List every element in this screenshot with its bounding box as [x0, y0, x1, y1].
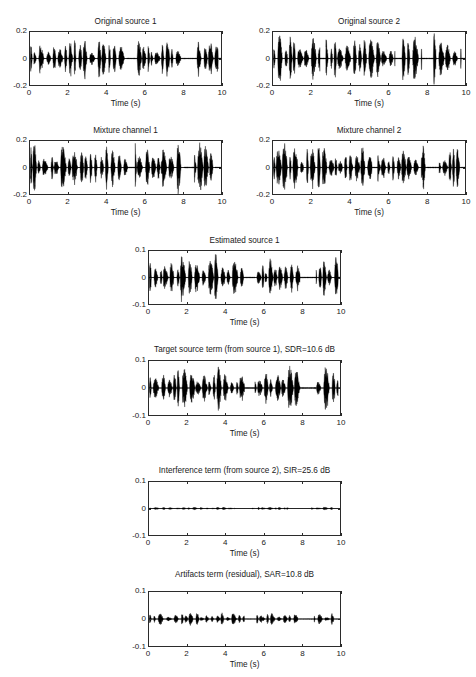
- source-separation-figure: Original source 10.20-0.20246810Time (s)…: [0, 0, 476, 677]
- x-axis-label-artifacts-term: Time (s): [148, 660, 341, 669]
- plot-area-artifacts-term: [148, 591, 341, 647]
- x-tick-label: 6: [252, 650, 276, 658]
- y-tick-mark: [148, 646, 151, 647]
- waveform-artifacts-term: [149, 592, 340, 646]
- x-tick-mark: [225, 644, 226, 647]
- x-tick-mark: [264, 644, 265, 647]
- x-tick-label: 8: [290, 650, 314, 658]
- x-tick-mark-top: [341, 591, 342, 594]
- panel-artifacts-term: Artifacts term (residual), SAR=10.8 dB0.…: [0, 0, 476, 677]
- x-tick-mark: [302, 644, 303, 647]
- x-tick-mark-top: [302, 591, 303, 594]
- y-tick-label: 0.1: [120, 587, 146, 595]
- x-tick-mark-top: [225, 591, 226, 594]
- x-tick-mark-top: [264, 591, 265, 594]
- y-tick-label: 0: [120, 615, 146, 623]
- x-tick-label: 0: [136, 650, 160, 658]
- x-tick-mark: [187, 644, 188, 647]
- x-tick-mark-top: [187, 591, 188, 594]
- y-tick-mark: [148, 619, 151, 620]
- x-tick-label: 10: [329, 650, 353, 658]
- y-tick-mark-right: [338, 646, 341, 647]
- y-tick-mark-right: [338, 619, 341, 620]
- x-tick-label: 2: [175, 650, 199, 658]
- panel-title-artifacts-term: Artifacts term (residual), SAR=10.8 dB: [108, 570, 381, 580]
- x-tick-label: 4: [213, 650, 237, 658]
- y-tick-mark-right: [338, 591, 341, 592]
- x-tick-mark: [341, 644, 342, 647]
- y-tick-mark: [148, 591, 151, 592]
